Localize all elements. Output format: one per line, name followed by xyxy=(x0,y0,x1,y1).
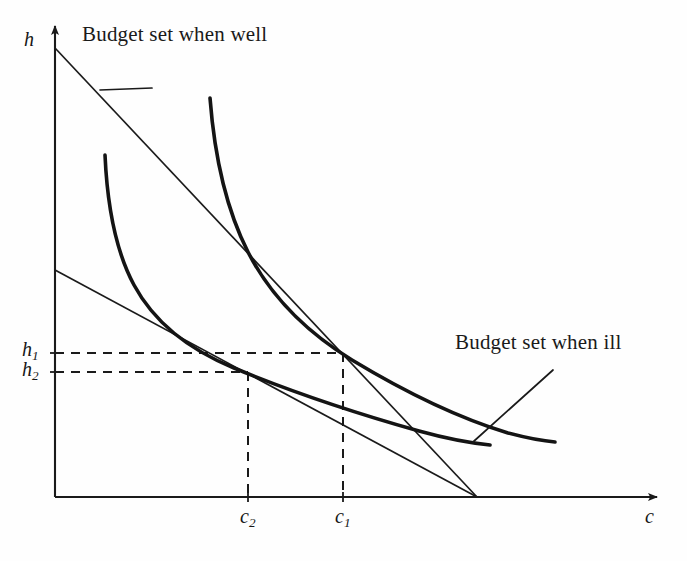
annotation-budget-set-when-well: Budget set when well xyxy=(82,22,267,47)
x-axis-label: c xyxy=(645,505,654,528)
axis-group xyxy=(55,26,657,497)
annotation-budget-set-when-ill: Budget set when ill xyxy=(455,330,622,355)
diagram-canvas xyxy=(0,0,687,561)
tick-label-c2-subscript: 2 xyxy=(249,515,256,530)
leader-lines xyxy=(100,88,553,442)
budget-ill-leader-line xyxy=(473,370,553,442)
tick-label-c2: c2 xyxy=(240,505,255,531)
tick-label-c2-base: c xyxy=(240,505,249,527)
indifference-curve-well xyxy=(210,98,555,442)
tick-label-h1-base: h xyxy=(22,338,32,360)
tick-label-c1-subscript: 1 xyxy=(344,515,351,530)
indifference-curves xyxy=(105,98,555,445)
budget-line-ill xyxy=(55,270,477,497)
economics-diagram: h c h1 h2 c1 c2 Budget set when well Bud… xyxy=(0,0,687,561)
tick-label-h2-base: h xyxy=(22,358,32,380)
tick-label-c1: c1 xyxy=(335,505,350,531)
tick-label-h2-subscript: 2 xyxy=(32,368,39,383)
tick-label-c1-base: c xyxy=(335,505,344,527)
tick-label-h2: h2 xyxy=(22,358,39,384)
tick-marks xyxy=(50,353,343,502)
budget-well-leader-line xyxy=(100,88,152,90)
y-axis-label: h xyxy=(24,28,34,51)
guide-lines xyxy=(55,353,343,497)
